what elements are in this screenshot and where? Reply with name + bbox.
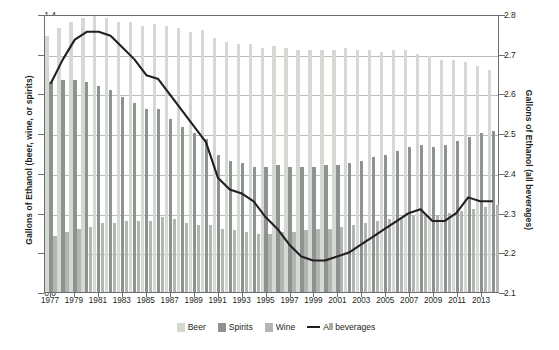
legend-item[interactable]: Beer xyxy=(177,322,206,332)
bar-group xyxy=(392,16,404,292)
x-axis-tick-label: 2013 xyxy=(461,296,501,305)
bar-spirits xyxy=(121,97,124,292)
bar-spirits xyxy=(288,167,291,292)
bar-beer xyxy=(249,44,252,292)
bar-beer xyxy=(356,50,359,292)
y-axis-left-tick-mark xyxy=(38,293,44,294)
bar-group xyxy=(475,16,487,292)
y-axis-right-tick-label: 2.5 xyxy=(504,129,544,139)
x-axis-tick-mark xyxy=(313,293,314,297)
bar-spirits xyxy=(360,161,363,292)
bar-spirits xyxy=(109,90,112,293)
bar-beer xyxy=(452,60,455,292)
bar-spirits xyxy=(181,127,184,292)
bar-group xyxy=(487,16,499,292)
y-axis-right-tick-mark xyxy=(499,55,505,56)
bar-spirits xyxy=(324,165,327,292)
y-axis-right-tick-mark xyxy=(499,174,505,175)
bar-beer xyxy=(308,50,311,292)
bar-beer xyxy=(320,50,323,292)
legend-swatch-spirits xyxy=(218,323,226,332)
bar-spirits xyxy=(300,167,303,292)
x-axis-tick-mark xyxy=(50,293,51,297)
bar-group xyxy=(451,16,463,292)
y-axis-right-tick-label: 2.6 xyxy=(504,89,544,99)
bar-beer xyxy=(464,62,467,292)
bar-group xyxy=(117,16,129,292)
bar-beer xyxy=(165,26,168,292)
bar-group xyxy=(45,16,57,292)
bar-spirits xyxy=(444,145,447,292)
bar-spirits xyxy=(49,82,52,293)
bar-group xyxy=(428,16,440,292)
bar-group xyxy=(272,16,284,292)
bar-group xyxy=(416,16,428,292)
x-axis-tick-mark xyxy=(481,293,482,297)
y-axis-right-tick-mark xyxy=(499,253,505,254)
x-axis-tick-mark xyxy=(385,293,386,297)
bar-beer xyxy=(189,32,192,292)
bar-beer xyxy=(284,48,287,292)
x-axis-tick-mark xyxy=(337,293,338,297)
bar-group xyxy=(129,16,141,292)
legend-item[interactable]: Spirits xyxy=(218,322,253,332)
bar-beer xyxy=(368,50,371,292)
x-axis-tick-mark xyxy=(290,293,291,297)
y-axis-right-tick-mark xyxy=(499,134,505,135)
bar-group xyxy=(380,16,392,292)
bar-beer xyxy=(45,36,48,292)
chart-legend: BeerSpiritsWineAll beverages xyxy=(0,322,559,332)
x-axis-tick-mark xyxy=(170,293,171,297)
bar-group xyxy=(105,16,117,292)
y-axis-right-tick-label: 2.7 xyxy=(504,50,544,60)
bar-group xyxy=(81,16,93,292)
bar-spirits xyxy=(312,167,315,292)
bar-spirits xyxy=(193,133,196,292)
bar-group xyxy=(236,16,248,292)
legend-swatch-beer xyxy=(177,323,185,332)
bar-spirits xyxy=(61,80,64,293)
y-axis-right-tick-label: 2.3 xyxy=(504,209,544,219)
x-axis-tick-mark xyxy=(409,293,410,297)
bar-group xyxy=(404,16,416,292)
legend-label: Spirits xyxy=(229,322,253,332)
bar-spirits xyxy=(205,139,208,292)
y-axis-right-tick-mark xyxy=(499,15,505,16)
bar-group xyxy=(284,16,296,292)
bar-beer xyxy=(404,50,407,292)
bar-beer xyxy=(105,18,108,292)
x-axis-tick-mark xyxy=(74,293,75,297)
bar-spirits xyxy=(432,147,435,292)
bar-beer xyxy=(380,52,383,292)
bar-beer xyxy=(57,28,60,292)
bar-beer xyxy=(416,54,419,292)
bar-group xyxy=(188,16,200,292)
legend-item[interactable]: Wine xyxy=(265,322,296,332)
legend-item[interactable]: All beverages xyxy=(307,322,375,332)
bar-beer xyxy=(332,50,335,292)
bar-spirits xyxy=(133,103,136,292)
bar-beer xyxy=(296,50,299,292)
bar-group xyxy=(463,16,475,292)
bar-beer xyxy=(440,60,443,292)
bar-spirits xyxy=(348,163,351,292)
bar-beer xyxy=(153,24,156,292)
bar-spirits xyxy=(372,157,375,292)
y-axis-right-tick-label: 2.8 xyxy=(504,10,544,20)
bar-spirits xyxy=(468,137,471,292)
bar-spirits xyxy=(157,109,160,292)
bar-group xyxy=(224,16,236,292)
bar-group xyxy=(212,16,224,292)
x-axis-tick-mark xyxy=(122,293,123,297)
bar-beer xyxy=(201,30,204,292)
bar-beer xyxy=(213,38,216,292)
bar-group xyxy=(308,16,320,292)
bar-group xyxy=(141,16,153,292)
legend-label: Beer xyxy=(188,322,206,332)
chart-figure: Gallons of Ethanol (beer, wine, or spiri… xyxy=(0,0,559,350)
bar-spirits xyxy=(492,131,495,292)
plot-area xyxy=(44,15,499,293)
bar-group xyxy=(176,16,188,292)
bar-beer xyxy=(344,48,347,292)
x-axis-tick-mark xyxy=(98,293,99,297)
